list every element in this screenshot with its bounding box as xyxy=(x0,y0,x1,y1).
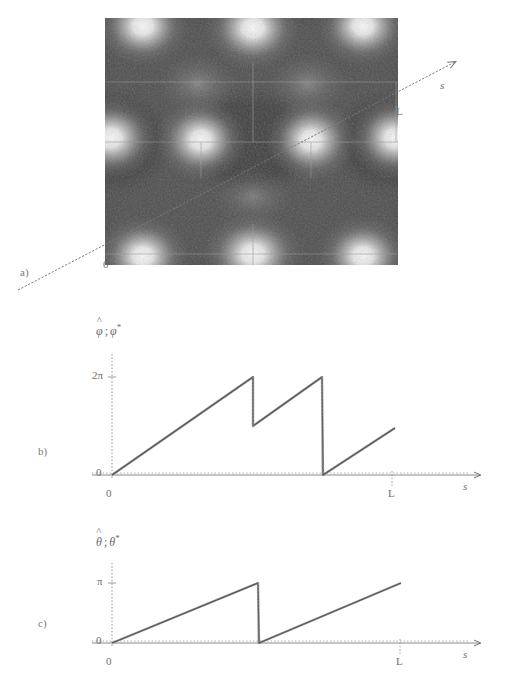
panel-c: c) ^θ;θ* π 0 0 L s xyxy=(0,525,512,689)
phi-axis-label: ^φ;φ* xyxy=(96,322,121,339)
star-accent: * xyxy=(117,322,122,332)
theta-hat-symbol: ^θ xyxy=(96,535,102,550)
theta-ytick-label-0: 0 xyxy=(96,634,102,646)
panel-b: b) ^φ;φ* 2π 0 0 L s xyxy=(0,300,512,525)
panel-c-label: c) xyxy=(38,617,47,629)
phi-ytick-label-0: 0 xyxy=(96,466,102,478)
theta-star-symbol: θ* xyxy=(109,533,119,550)
cut-axis-label-s: s xyxy=(440,79,444,91)
theta-star-curve xyxy=(112,583,401,643)
theta-xtick-label-0: 0 xyxy=(106,655,112,667)
theta-axis-label: ^θ;θ* xyxy=(96,533,120,550)
phi-ytick-label-2pi: 2π xyxy=(92,369,103,381)
phi-hat-curve xyxy=(112,377,395,475)
theta-ytick-label-pi: π xyxy=(97,575,103,587)
lattice-image xyxy=(105,18,398,265)
phi-xtick-label-0: 0 xyxy=(106,487,112,499)
phi-xtick-label-L: L xyxy=(388,487,395,499)
hat-accent: ^ xyxy=(96,315,103,326)
label-separator: ; xyxy=(102,535,109,549)
panel-a: a) 0 L s xyxy=(0,0,512,300)
figure-root: a) 0 L s xyxy=(0,0,512,689)
theta-plot xyxy=(0,525,512,689)
phi-star-symbol: φ* xyxy=(110,322,121,339)
cut-length-label: L xyxy=(396,105,403,117)
phi-hat-symbol: ^φ xyxy=(96,324,103,339)
hat-accent: ^ xyxy=(96,526,102,537)
panel-a-label: a) xyxy=(20,266,29,278)
star-accent: * xyxy=(115,533,120,543)
phi-plot xyxy=(0,300,512,525)
label-separator: ; xyxy=(103,324,110,338)
cut-origin-label: 0 xyxy=(103,258,109,270)
theta-xaxis-label-s: s xyxy=(463,648,467,660)
theta-xtick-label-L: L xyxy=(396,655,403,667)
phi-xaxis-label-s: s xyxy=(463,480,467,492)
lattice-heatmap xyxy=(105,18,398,265)
panel-b-label: b) xyxy=(38,445,47,457)
theta-hat-curve xyxy=(112,583,401,643)
